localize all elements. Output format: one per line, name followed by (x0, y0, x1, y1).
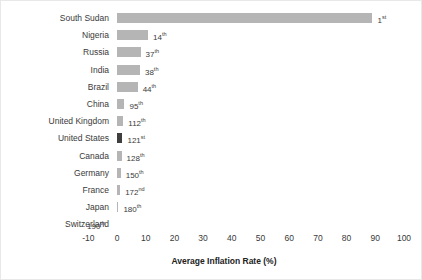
category-label: Canada (9, 151, 109, 161)
category-label: China (9, 99, 109, 109)
category-label: Germany (9, 168, 109, 178)
rank-label: 14th (153, 29, 167, 43)
x-axis: -100102030405060708090100 (1, 233, 422, 247)
rank-label: 112th (128, 115, 145, 129)
rank-suffix: th (138, 100, 143, 106)
rank-number: 128 (127, 153, 140, 162)
x-tick-label: 0 (115, 233, 120, 244)
x-axis-title-text: Average Inflation Rate (%) (171, 256, 276, 266)
rank-suffix: st (382, 14, 386, 20)
rank-label: 1st (377, 12, 386, 26)
bar[interactable] (117, 168, 121, 178)
category-label: Japan (9, 202, 109, 212)
rank-suffix: th (139, 169, 144, 175)
rank-number: 190 (87, 222, 100, 231)
rank-label: 190th (87, 218, 105, 232)
category-label: United States (9, 133, 109, 143)
x-tick-label: 50 (256, 233, 265, 244)
rank-label: 150th (126, 167, 144, 181)
rank-suffix: nd (139, 186, 145, 192)
rank-label: 121st (127, 132, 145, 146)
bar-highlighted[interactable] (117, 133, 122, 143)
rank-suffix: th (154, 66, 159, 72)
rank-number: 150 (126, 170, 139, 179)
rank-number: 44 (143, 84, 152, 93)
bar[interactable] (117, 151, 122, 161)
rank-label: 44th (143, 81, 157, 95)
rank-suffix: th (152, 83, 157, 89)
bar[interactable] (117, 65, 140, 75)
bar[interactable] (117, 99, 124, 109)
x-tick-label: 80 (342, 233, 351, 244)
bar[interactable] (117, 47, 141, 57)
rank-number: 38 (145, 67, 154, 76)
bar-row[interactable]: Canada128th (1, 147, 422, 165)
x-tick-label: -10 (82, 233, 94, 244)
rank-suffix: th (100, 220, 105, 226)
bar[interactable] (117, 82, 138, 92)
rank-number: 112 (128, 119, 141, 128)
rank-label: 180th (123, 201, 141, 215)
category-label: Brazil (9, 82, 109, 92)
rank-number: 180 (123, 205, 136, 214)
bar-row[interactable]: France172nd (1, 181, 422, 199)
x-tick-label: 90 (371, 233, 380, 244)
bar-row[interactable]: Japan180th (1, 198, 422, 216)
chart-container: South Sudan1stNigeria14thRussia37thIndia… (0, 0, 422, 280)
x-tick-label: 100 (397, 233, 411, 244)
bar[interactable] (117, 185, 120, 195)
rank-number: 121 (127, 136, 140, 145)
category-label: France (9, 185, 109, 195)
rank-suffix: th (140, 152, 145, 158)
bar-row[interactable]: India38th (1, 61, 422, 79)
x-tick-label: 30 (198, 233, 207, 244)
rank-label: 172nd (125, 184, 144, 198)
rank-number: 172 (125, 188, 138, 197)
rank-label: 95th (129, 98, 143, 112)
bar[interactable] (117, 116, 123, 126)
bar[interactable] (117, 202, 118, 212)
category-label: India (9, 65, 109, 75)
bar-row[interactable]: South Sudan1st (1, 9, 422, 27)
bar-row[interactable]: Nigeria14th (1, 26, 422, 44)
rank-suffix: th (141, 117, 146, 123)
rank-suffix: th (137, 203, 142, 209)
x-tick-label: 70 (313, 233, 322, 244)
bar-row[interactable]: Brazil44th (1, 78, 422, 96)
category-label: Russia (9, 47, 109, 57)
bar[interactable] (117, 30, 148, 40)
rank-suffix: th (154, 48, 159, 54)
bar-row[interactable]: Germany150th (1, 164, 422, 182)
rank-suffix: th (162, 31, 167, 37)
bar-row[interactable]: Russia37th (1, 43, 422, 61)
bar[interactable] (117, 13, 372, 23)
x-axis-title: Average Inflation Rate (%) (1, 256, 422, 266)
category-label: Nigeria (9, 30, 109, 40)
bar-row[interactable]: United States121st (1, 129, 422, 147)
category-label: United Kingdom (9, 116, 109, 126)
x-tick-label: 20 (170, 233, 179, 244)
x-tick-label: 60 (284, 233, 293, 244)
rank-label: 38th (145, 64, 159, 78)
bar-row[interactable]: China95th (1, 95, 422, 113)
rank-suffix: st (141, 134, 145, 140)
rank-label: 128th (127, 150, 145, 164)
bar-row[interactable]: Switzerland190th (1, 215, 422, 233)
rank-number: 14 (153, 33, 162, 42)
category-label: South Sudan (9, 13, 109, 23)
rank-label: 37th (146, 46, 160, 60)
x-tick-label: 10 (141, 233, 150, 244)
x-tick-label: 40 (227, 233, 236, 244)
bar-row[interactable]: United Kingdom112th (1, 112, 422, 130)
